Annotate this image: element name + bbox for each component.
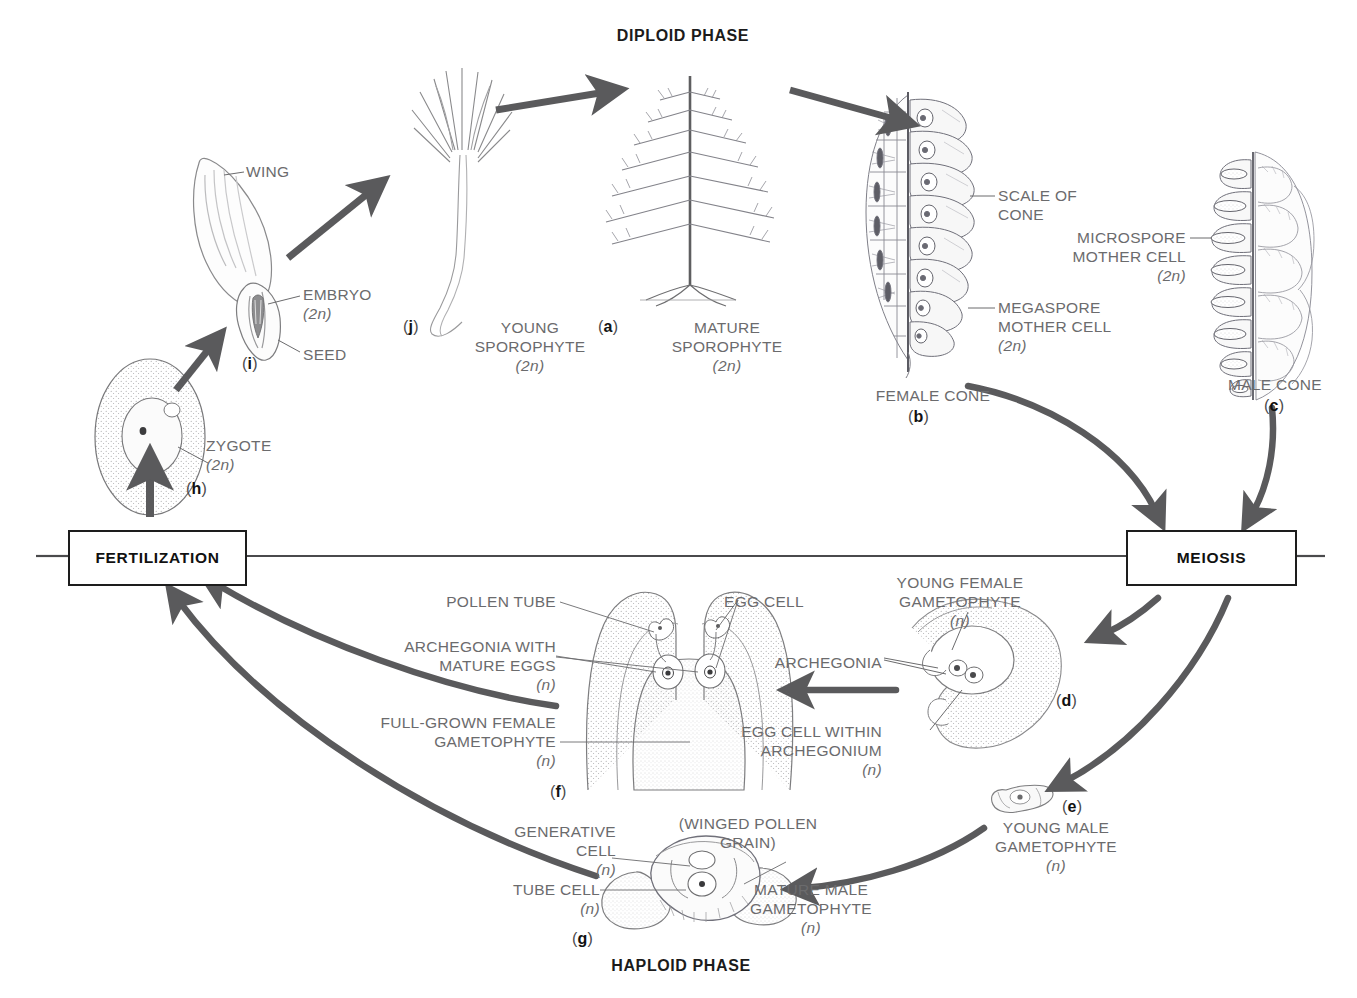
arrow-zygote-to-seed (176, 345, 212, 390)
young-sporophyte-ploidy: (2n) (440, 356, 620, 375)
seed-with-wing-illustration (194, 158, 281, 360)
key-f: (f) (550, 783, 567, 801)
young-sporophyte-illustration (412, 68, 512, 336)
arrow-meiosis-to-young-male-gametophyte (1064, 598, 1228, 782)
key-d-text: (d) (1056, 692, 1077, 709)
young-female-gametophyte-label: YOUNG FEMALE GAMETOPHYTE (862, 573, 1058, 611)
egg-cell-within-archegonium-ploidy: (n) (714, 760, 882, 779)
key-i-text: (i) (242, 355, 258, 372)
zygote-ploidy: (2n) (206, 455, 235, 474)
embryo-ploidy: (2n) (303, 304, 332, 323)
pollen-tube-label: POLLEN TUBE (360, 592, 556, 611)
zygote-label: ZYGOTE (206, 436, 272, 455)
megaspore-mother-cell-ploidy: (2n) (998, 336, 1027, 355)
scale-of-cone-label: SCALE OF CONE (998, 186, 1077, 224)
diploid-phase-title: DIPLOID PHASE (568, 27, 798, 45)
female-cone-illustration (866, 92, 995, 378)
arrow-mature-sporophyte-to-cones (790, 90, 898, 120)
embryo-label: EMBRYO (303, 285, 372, 304)
egg-cell-within-archegonium-label: EGG CELL WITHIN ARCHEGONIUM (714, 722, 882, 760)
tube-cell-label: TUBE CELL (444, 880, 600, 899)
haploid-phase-title: HAPLOID PHASE (566, 957, 796, 975)
key-c: (c) (1264, 397, 1284, 415)
key-g-text: (g) (572, 930, 593, 947)
winged-pollen-grain-label: (WINGED POLLEN GRAIN) (638, 814, 858, 852)
archegonia-label: ARCHEGONIA (740, 653, 882, 672)
pine-life-cycle-diagram: DIPLOID PHASE HAPLOID PHASE FERTILIZATIO… (0, 0, 1357, 998)
mature-male-gametophyte-ploidy: (n) (706, 918, 916, 937)
key-j-text: (j) (403, 318, 419, 335)
archegonia-mature-eggs-ploidy: (n) (336, 675, 556, 694)
generative-cell-ploidy: (n) (456, 860, 616, 879)
mature-male-gametophyte-label: MATURE MALE GAMETOPHYTE (706, 880, 916, 918)
full-grown-female-gametophyte-label: FULL-GROWN FEMALE GAMETOPHYTE (336, 713, 556, 751)
key-e-text: (e) (1062, 798, 1082, 815)
seed-label: SEED (303, 345, 346, 364)
young-male-gametophyte-label: YOUNG MALE GAMETOPHYTE (958, 818, 1154, 856)
key-h-text: (h) (186, 480, 207, 497)
male-cone-illustration (1190, 152, 1314, 400)
key-a-text: (a) (598, 318, 618, 335)
megaspore-mother-cell-label: MEGASPORE MOTHER CELL (998, 298, 1112, 336)
generative-cell-label: GENERATIVE CELL (456, 822, 616, 860)
key-e: (e) (1062, 798, 1082, 816)
key-a: (a) (598, 318, 618, 336)
female-cone-label: FEMALE CONE (838, 386, 1028, 405)
fertilization-box[interactable]: FERTILIZATION (68, 530, 247, 586)
young-female-gametophyte-ploidy: (n) (862, 611, 1058, 630)
key-b-text: (b) (908, 408, 929, 425)
arrow-meiosis-to-young-female-gametophyte (1104, 598, 1158, 634)
mature-sporophyte-label: MATURE SPOROPHYTE (637, 318, 817, 356)
young-male-gametophyte-illustration (992, 785, 1053, 812)
mature-sporophyte-illustration (606, 76, 774, 306)
arrow-male-cone-to-meiosis (1252, 408, 1273, 514)
wing-label: WING (246, 162, 289, 181)
key-h: (h) (186, 480, 207, 498)
key-i: (i) (242, 355, 258, 373)
key-g: (g) (572, 930, 593, 948)
microspore-mother-cell-ploidy: (2n) (1000, 266, 1186, 285)
key-c-text: (c) (1264, 397, 1284, 414)
tube-cell-ploidy: (n) (444, 899, 600, 918)
key-f-text: (f) (550, 783, 567, 800)
full-grown-female-gametophyte-ploidy: (n) (336, 751, 556, 770)
key-j: (j) (403, 318, 419, 336)
egg-cell-label: EGG CELL (724, 592, 804, 611)
seed-callout-lines (224, 172, 300, 352)
young-male-gametophyte-ploidy: (n) (958, 856, 1154, 875)
male-cone-label: MALE CONE (1182, 375, 1357, 394)
microspore-mother-cell-label: MICROSPORE MOTHER CELL (1000, 228, 1186, 266)
key-b: (b) (908, 408, 929, 426)
archegonia-mature-eggs-label: ARCHEGONIA WITH MATURE EGGS (336, 637, 556, 675)
key-d: (d) (1056, 692, 1077, 710)
meiosis-box[interactable]: MEIOSIS (1126, 530, 1297, 586)
young-sporophyte-label: YOUNG SPOROPHYTE (440, 318, 620, 356)
arrow-seed-to-young-sporophyte (288, 190, 372, 258)
arrow-young-to-mature-sporophyte (496, 92, 606, 110)
mature-sporophyte-ploidy: (2n) (637, 356, 817, 375)
